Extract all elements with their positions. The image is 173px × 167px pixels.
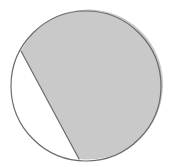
figure-container	[0, 0, 173, 167]
circle-segment-diagram	[0, 0, 173, 167]
